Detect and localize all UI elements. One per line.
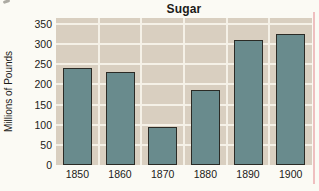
gridline-vertical-1 bbox=[98, 18, 100, 165]
chart-title: Sugar bbox=[56, 2, 312, 16]
y-axis-title: Millions of Pounds bbox=[3, 51, 14, 132]
y-tick-label-350: 350 bbox=[19, 18, 52, 30]
bar-1900 bbox=[276, 34, 305, 165]
x-tick-label-1860: 1860 bbox=[99, 168, 142, 180]
y-tick-label-0: 0 bbox=[19, 159, 52, 171]
scan-artifact-smudge bbox=[3, 0, 11, 4]
gridline-vertical-3 bbox=[183, 18, 185, 165]
y-tick-label-300: 300 bbox=[19, 38, 52, 50]
x-tick-label-1890: 1890 bbox=[227, 168, 270, 180]
gridline-vertical-4 bbox=[226, 18, 228, 165]
bar-1870 bbox=[148, 127, 177, 165]
bar-1890 bbox=[234, 40, 263, 165]
gridline-vertical-5 bbox=[268, 18, 270, 165]
bar-1850 bbox=[63, 68, 92, 165]
chart-figure: Sugar Millions of Pounds 050100150200250… bbox=[0, 0, 319, 191]
x-tick-label-1870: 1870 bbox=[141, 168, 184, 180]
y-tick-label-200: 200 bbox=[19, 78, 52, 90]
y-axis-title-container: Millions of Pounds bbox=[0, 18, 17, 165]
x-tick-label-1900: 1900 bbox=[269, 168, 312, 180]
bar-1860 bbox=[106, 72, 135, 165]
y-tick-label-50: 50 bbox=[19, 139, 52, 151]
y-tick-label-150: 150 bbox=[19, 99, 52, 111]
bar-1880 bbox=[191, 90, 220, 165]
plot-area bbox=[56, 18, 312, 165]
x-tick-label-1850: 1850 bbox=[56, 168, 99, 180]
x-tick-label-1880: 1880 bbox=[184, 168, 227, 180]
scan-artifact-line bbox=[313, 12, 315, 184]
gridline-vertical-2 bbox=[140, 18, 142, 165]
y-tick-label-250: 250 bbox=[19, 58, 52, 70]
y-tick-label-100: 100 bbox=[19, 119, 52, 131]
